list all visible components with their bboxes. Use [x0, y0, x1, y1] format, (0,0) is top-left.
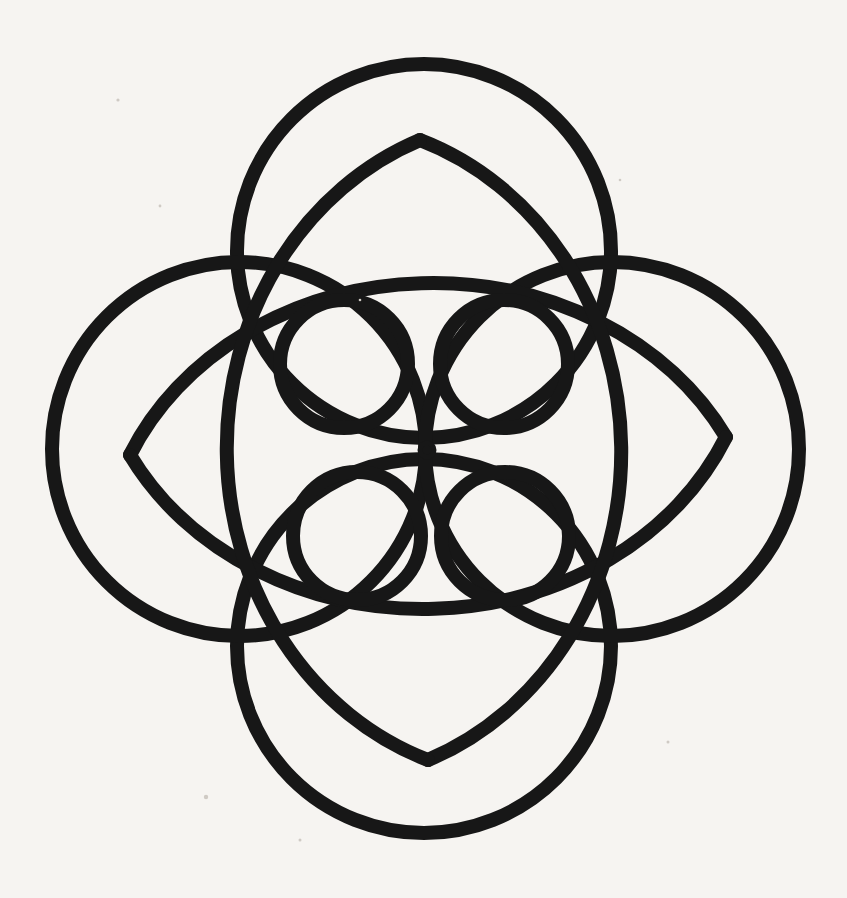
paper-speck-1 — [116, 98, 119, 101]
rosette-drawing — [0, 0, 847, 898]
paper-speck-2 — [667, 741, 670, 744]
paper-speck-6 — [299, 839, 302, 842]
paper-speck-4 — [359, 299, 362, 302]
figure-canvas — [0, 0, 847, 898]
paper-speck-3 — [159, 205, 162, 208]
paper-speck-5 — [619, 179, 622, 182]
paper-speck-0 — [204, 795, 208, 799]
